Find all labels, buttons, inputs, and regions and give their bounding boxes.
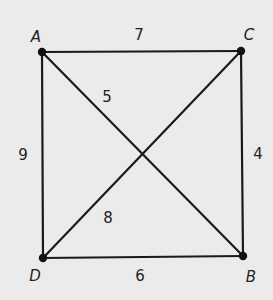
vertex-b-dot bbox=[239, 252, 247, 260]
graph-edges-layer bbox=[0, 0, 273, 300]
edge-db bbox=[43, 256, 243, 258]
edge-weight-ac: 7 bbox=[134, 28, 144, 43]
edge-weight-db: 6 bbox=[135, 269, 145, 284]
edge-weight-ab: 5 bbox=[102, 90, 112, 105]
graph-diagram: A C D B 7 9 4 6 5 8 bbox=[0, 0, 273, 300]
vertex-d-dot bbox=[39, 254, 47, 262]
vertex-label-b: B bbox=[246, 270, 256, 285]
vertex-a-dot bbox=[38, 48, 46, 56]
edge-weight-dc: 8 bbox=[103, 211, 113, 226]
vertex-label-c: C bbox=[244, 28, 254, 43]
edge-ad bbox=[42, 52, 43, 258]
edge-weight-ad: 9 bbox=[18, 148, 28, 163]
vertex-label-d: D bbox=[29, 269, 41, 284]
edge-ac bbox=[42, 51, 241, 52]
edge-weight-cb: 4 bbox=[253, 147, 263, 162]
vertex-c-dot bbox=[237, 47, 245, 55]
vertex-label-a: A bbox=[31, 30, 41, 45]
edge-cb bbox=[241, 51, 243, 256]
